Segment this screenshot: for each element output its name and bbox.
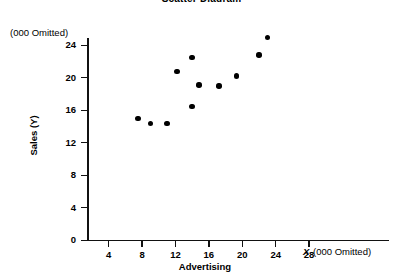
x-tick-16 <box>208 241 209 247</box>
x-axis-title: Advertising <box>150 261 260 272</box>
x-tick-label-24: 24 <box>264 249 288 260</box>
y-axis-unit-note: (000 Omitted) <box>10 27 68 38</box>
x-tick-24 <box>275 241 276 247</box>
y-axis-title: Sales (Y) <box>28 91 39 181</box>
y-tick-label-0: 0 <box>50 234 76 245</box>
data-point <box>265 35 270 40</box>
x-tick-label-20: 20 <box>230 249 254 260</box>
x-tick-label-4: 4 <box>97 249 121 260</box>
scatter-chart: Scatter Diagram (000 Omitted) Sales (Y) … <box>0 0 403 276</box>
data-point <box>189 104 194 109</box>
x-tick-12 <box>175 241 176 247</box>
y-tick-16 <box>81 110 87 111</box>
data-point <box>174 69 179 74</box>
y-tick-label-4: 4 <box>50 202 76 213</box>
data-point <box>189 55 194 60</box>
y-tick-20 <box>81 77 87 78</box>
y-tick-label-8: 8 <box>50 169 76 180</box>
data-point <box>234 73 239 78</box>
y-tick-4 <box>81 207 87 208</box>
y-tick-0 <box>81 240 87 241</box>
data-point <box>164 121 169 126</box>
chart-title: Scatter Diagram <box>0 0 403 2</box>
data-point <box>135 116 140 121</box>
x-variable-symbol: X <box>303 246 309 257</box>
plot-area <box>88 38 388 240</box>
x-tick-label-12: 12 <box>163 249 187 260</box>
x-tick-label-8: 8 <box>130 249 154 260</box>
data-point <box>256 52 261 57</box>
x-tick-4 <box>108 241 109 247</box>
y-tick-12 <box>81 142 87 143</box>
data-point <box>148 121 153 126</box>
data-point <box>216 83 221 88</box>
y-tick-8 <box>81 175 87 176</box>
y-tick-label-20: 20 <box>50 72 76 83</box>
y-tick-24 <box>81 45 87 46</box>
x-tick-label-16: 16 <box>197 249 221 260</box>
y-tick-label-24: 24 <box>50 39 76 50</box>
x-axis-unit-note: (000 Omitted) <box>313 246 371 257</box>
x-tick-8 <box>141 241 142 247</box>
data-point <box>196 82 201 87</box>
y-tick-label-12: 12 <box>50 137 76 148</box>
x-tick-20 <box>242 241 243 247</box>
y-tick-label-16: 16 <box>50 104 76 115</box>
